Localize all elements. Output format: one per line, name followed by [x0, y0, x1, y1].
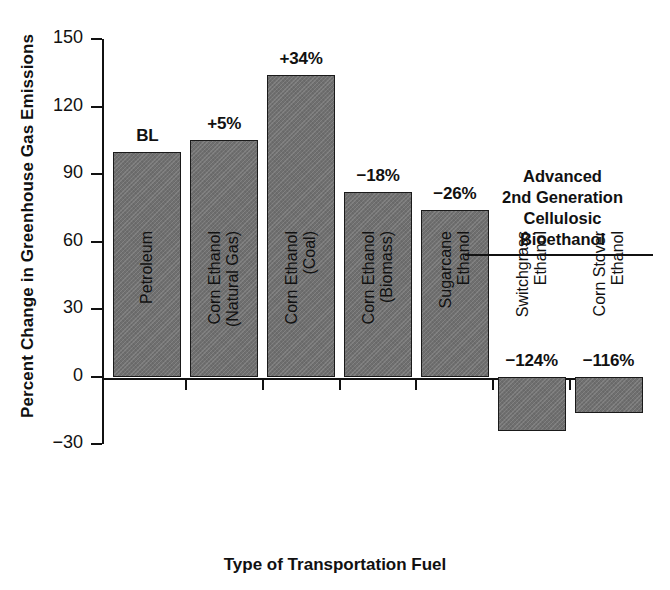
x-tick	[339, 380, 341, 390]
bar-value-label: −18%	[318, 166, 438, 186]
y-tick: 150	[91, 38, 102, 40]
y-tick: 120	[91, 106, 102, 108]
y-tick-label: 60	[13, 230, 83, 251]
x-category-label: Petroleum	[138, 231, 156, 391]
y-tick: 30	[91, 308, 102, 310]
x-category-label-line: Corn Ethanol	[360, 231, 378, 391]
x-category-label: Corn Ethanol(Coal)	[283, 231, 319, 391]
y-tick: −30	[91, 443, 102, 445]
y-tick-label: 0	[13, 365, 83, 386]
y-tick: 90	[91, 173, 102, 175]
bar-chart: Percent Change in Greenhouse Gas Emissio…	[0, 0, 670, 590]
x-category-label-line: Petroleum	[138, 231, 156, 391]
advanced-bioethanol-annotation: Advanced 2nd Generation Cellulosic Bioet…	[465, 166, 660, 256]
x-category-label-line: (Natural Gas)	[224, 231, 242, 391]
x-tick	[185, 380, 187, 390]
annotation-line-4: Bioethanol	[465, 229, 660, 250]
x-tick	[415, 380, 417, 390]
x-category-label-line: Sugarcane	[437, 231, 455, 391]
x-category-label: Corn Ethanol(Biomass)	[360, 231, 396, 391]
x-category-label-line: (Biomass)	[378, 231, 396, 391]
x-axis-title: Type of Transportation Fuel	[0, 555, 670, 575]
y-tick-label: −30	[13, 432, 83, 453]
y-tick: 0	[91, 376, 102, 378]
x-tick	[492, 380, 494, 390]
y-tick-label: 120	[13, 95, 83, 116]
x-category-label-line: Corn Ethanol	[283, 231, 301, 391]
y-tick: 60	[91, 241, 102, 243]
y-tick-label: 150	[13, 27, 83, 48]
y-axis-line	[102, 39, 104, 444]
annotation-underline	[465, 254, 653, 256]
y-tick-label: 30	[13, 297, 83, 318]
x-tick	[262, 380, 264, 390]
x-tick	[569, 380, 571, 390]
x-category-label-line: (Coal)	[301, 231, 319, 391]
x-category-label-line: Corn Ethanol	[206, 231, 224, 391]
x-category-label: Corn Ethanol(Natural Gas)	[206, 231, 242, 391]
y-tick-label: 90	[13, 162, 83, 183]
bar-value-label: +34%	[241, 49, 361, 69]
annotation-line-2: 2nd Generation	[465, 187, 660, 208]
annotation-line-1: Advanced	[465, 166, 660, 187]
annotation-line-3: Cellulosic	[465, 208, 660, 229]
